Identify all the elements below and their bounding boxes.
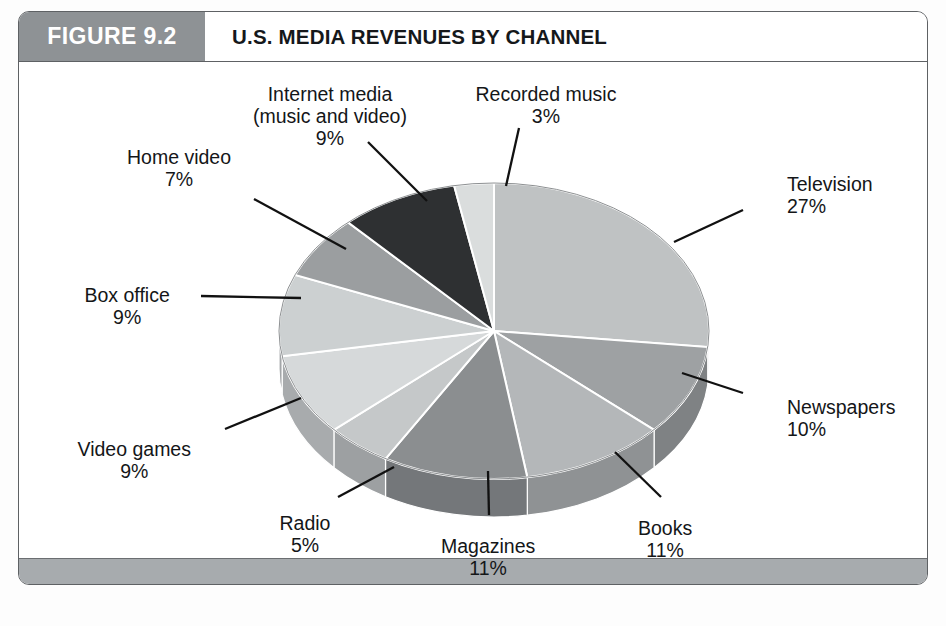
slice-label-value: 10% <box>787 418 895 440</box>
figure-number-badge: FIGURE 9.2 <box>19 12 205 61</box>
slice-label-magazines: Magazines11% <box>441 535 535 579</box>
slice-label-value: 9% <box>253 127 407 149</box>
leader-line <box>506 128 519 186</box>
slice-label-books: Books11% <box>638 517 692 561</box>
leader-line <box>254 199 346 249</box>
slice-label-video-games: Video games9% <box>78 438 191 482</box>
slice-label-value: 3% <box>476 105 617 127</box>
slice-label-name: Radio <box>280 512 331 534</box>
slice-label-newspapers: Newspapers10% <box>787 396 895 440</box>
pie-slice-television[interactable] <box>494 183 709 347</box>
slice-label-name-cont: (music and video) <box>253 105 407 127</box>
pie-top-faces <box>279 183 709 479</box>
slice-label-television: Television27% <box>787 173 873 217</box>
slice-label-value: 5% <box>280 534 331 556</box>
slice-label-value: 11% <box>638 539 692 561</box>
slice-label-value: 27% <box>787 195 873 217</box>
figure-frame: FIGURE 9.2 U.S. MEDIA REVENUES BY CHANNE… <box>18 11 928 585</box>
slice-label-radio: Radio5% <box>280 512 331 556</box>
slice-label-recorded-music: Recorded music3% <box>476 83 617 127</box>
slice-label-name: Recorded music <box>476 83 617 105</box>
slice-label-value: 11% <box>441 557 535 579</box>
slice-label-value: 9% <box>85 306 170 328</box>
slice-label-value: 7% <box>127 168 231 190</box>
slice-label-name: Books <box>638 517 692 539</box>
slice-label-name: Box office <box>85 284 170 306</box>
slice-label-internet-media-music-and-video: Internet media(music and video)9% <box>253 83 407 149</box>
slice-label-name: Magazines <box>441 535 535 557</box>
slice-label-name: Television <box>787 173 873 195</box>
slice-label-name: Video games <box>78 438 191 460</box>
slice-label-value: 9% <box>78 460 191 482</box>
leader-line <box>674 210 743 242</box>
slice-label-name: Home video <box>127 146 231 168</box>
leader-line <box>368 142 427 201</box>
slice-label-home-video: Home video7% <box>127 146 231 190</box>
leader-line <box>488 471 489 515</box>
figure-header: FIGURE 9.2 U.S. MEDIA REVENUES BY CHANNE… <box>19 12 927 62</box>
slice-label-name: Newspapers <box>787 396 895 418</box>
slice-label-box-office: Box office9% <box>85 284 170 328</box>
slice-label-name: Internet media <box>253 83 407 105</box>
figure-title: U.S. MEDIA REVENUES BY CHANNEL <box>205 12 927 61</box>
